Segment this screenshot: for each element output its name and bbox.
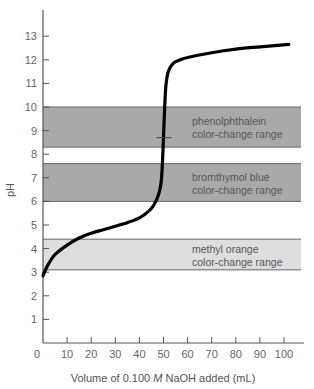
y-tick-label: 3 (31, 266, 37, 278)
x-tick-label: 100 (275, 348, 293, 360)
x-tick-label: 80 (230, 348, 242, 360)
y-tick-label: 12 (25, 54, 37, 66)
y-tick-label: 6 (31, 195, 37, 207)
y-tick-label: 7 (31, 172, 37, 184)
x-axis-title: Volume of 0.100 M NaOH added (mL) (71, 372, 256, 384)
x-tick-label: 60 (181, 348, 193, 360)
band-label-line1: phenolphthalein (192, 115, 266, 127)
band-label-line2: color-change range (192, 128, 283, 140)
y-tick-label: 9 (31, 125, 37, 137)
band-label-line1: methyl orange (192, 243, 259, 255)
titration-chart: 123456789101112130102030405060708090100 … (0, 0, 314, 389)
y-tick-label: 5 (31, 219, 37, 231)
x-tick-label: 20 (85, 348, 97, 360)
x-tick-label: 10 (61, 348, 73, 360)
y-tick-label: 8 (31, 148, 37, 160)
y-tick-label: 2 (31, 290, 37, 302)
y-axis-title: pH (4, 183, 16, 197)
x-tick-label: 40 (133, 348, 145, 360)
x-tick-label: 30 (109, 348, 121, 360)
y-tick-label: 13 (25, 30, 37, 42)
y-tick-label: 10 (25, 101, 37, 113)
x-tick-label: 70 (206, 348, 218, 360)
band-label-line2: color-change range (192, 184, 283, 196)
y-tick-label: 11 (26, 77, 37, 89)
band-label-line1: bromthymol blue (192, 171, 270, 183)
y-tick-label: 4 (31, 243, 37, 255)
x-tick-label: 0 (34, 348, 40, 360)
x-tick-label: 90 (254, 348, 266, 360)
x-tick-label: 50 (157, 348, 169, 360)
band-label-line2: color-change range (192, 256, 283, 268)
y-tick-label: 1 (31, 313, 37, 325)
